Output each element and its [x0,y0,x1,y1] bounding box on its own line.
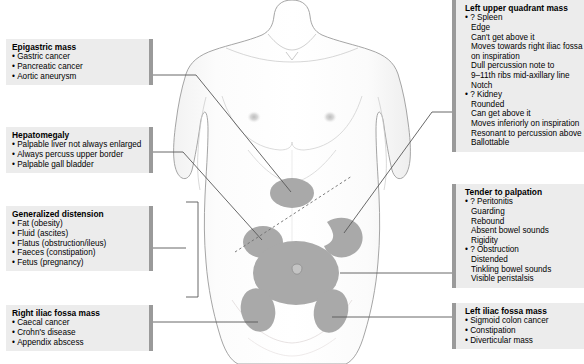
callout-left-upper-quadrant-mass[interactable]: Left upper quadrant mass ? Spleen Edge C… [452,0,584,152]
callout-generalized-distension[interactable]: Generalized distension Fat (obesity) Flu… [6,206,153,271]
list-item: Fluid (ascites) [12,229,139,239]
list-item: Guarding [465,207,578,217]
callout-list: ? Spleen Edge Can't get above it Moves t… [465,13,578,147]
callout-left-iliac-fossa-mass[interactable]: Left iliac fossa mass Sigmoid colon canc… [452,303,584,349]
callout-list: Palpable liver not always enlarged Alway… [12,140,139,169]
list-item: Sigmoid colon cancer [465,316,578,326]
leader-left-upper-quadrant [344,112,452,233]
list-item: Ballottable [465,138,578,148]
list-item: Fat (obesity) [12,219,139,229]
callout-hepatomegaly[interactable]: Hepatomegaly Palpable liver not always e… [6,127,153,173]
callout-title: Tender to palpation [465,187,578,197]
list-item: Can get above it [465,109,578,119]
leader-epigastric [153,75,291,192]
callout-title: Left iliac fossa mass [465,306,578,316]
callout-list: Caecal cancer Crohn's disease Appendix a… [12,318,139,347]
list-item: Palpable liver not always enlarged [12,140,139,150]
list-item: Rebound [465,217,578,227]
list-item: Crohn's disease [12,328,139,338]
list-item: Palpable gall bladder [12,160,139,170]
reference-dotted-line [235,176,352,252]
callout-title: Hepatomegaly [12,130,139,140]
callout-list: Fat (obesity) Fluid (ascites) Flatus (ob… [12,219,139,267]
list-item: Visible peristalsis [465,274,578,284]
list-item: Can't get above it [465,33,578,43]
callout-list: Sigmoid colon cancer Constipation Divert… [465,316,578,345]
callout-epigastric-mass[interactable]: Epigastric mass Gastric cancer Pancreati… [6,39,153,85]
callout-list: Gastric cancer Pancreatic cancer Aortic … [12,52,139,81]
callout-title: Epigastric mass [12,42,139,52]
list-item: Moves towards right iliac fossa [465,42,578,52]
list-item: Always percuss upper border [12,150,139,160]
list-item: Tinkling bowel sounds [465,265,578,275]
list-item: Notch [465,81,578,91]
bracket-distension [186,202,198,297]
list-item: Absent bowel sounds [465,226,578,236]
leader-hepatomegaly [153,152,262,240]
list-item: Caecal cancer [12,318,139,328]
list-item: Fetus (pregnancy) [12,258,139,268]
list-item: Appendix abscess [12,338,139,348]
list-item: Dull percussion note to [465,61,578,71]
callout-tender-to-palpation[interactable]: Tender to palpation ? Peritonitis Guardi… [452,184,584,288]
list-item: 9–11th ribs mid-axillary line [465,71,578,81]
list-item: Edge [465,23,578,33]
list-item: on inspiration [465,52,578,62]
list-item: Pancreatic cancer [12,62,139,72]
list-item: Gastric cancer [12,52,139,62]
list-item: ? Spleen [465,13,578,23]
list-item: ? Obstruction [465,245,578,255]
callout-title: Left upper quadrant mass [465,3,578,13]
list-item: ? Peritonitis [465,197,578,207]
list-item: Rigidity [465,236,578,246]
list-item: Faeces (constipation) [12,248,139,258]
list-item: Aortic aneurysm [12,72,139,82]
list-item: Distended [465,255,578,265]
callout-title: Right iliac fossa mass [12,308,139,318]
callout-right-iliac-fossa-mass[interactable]: Right iliac fossa mass Caecal cancer Cro… [6,305,153,351]
list-item: Flatus (obstruction/ileus) [12,239,139,249]
list-item: Resonant to percussion above it [465,129,578,139]
list-item: Constipation [465,326,578,336]
list-item: Rounded [465,100,578,110]
list-item: Moves inferiorly on inspiration [465,119,578,129]
list-item: ? Kidney [465,90,578,100]
list-item: Diverticular mass [465,336,578,346]
callout-title: Generalized distension [12,209,139,219]
diagram-canvas: Epigastric mass Gastric cancer Pancreati… [0,0,584,364]
callout-list: ? Peritonitis Guarding Rebound Absent bo… [465,197,578,283]
